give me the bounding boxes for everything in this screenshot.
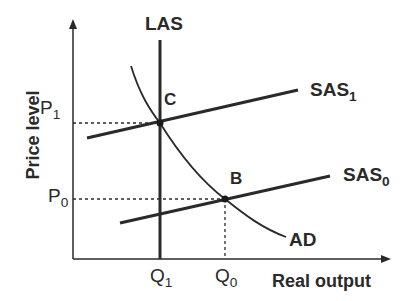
y-axis-title: Price level [24, 80, 42, 190]
ad-label: AD [289, 230, 316, 249]
x-axis-arrow-icon [381, 255, 391, 263]
point-c-label: C [164, 91, 176, 108]
point-b-marker [222, 196, 229, 203]
ad-curve [131, 66, 286, 237]
sas0-label: SAS0 [343, 165, 390, 184]
p1-tick-label: P1 [40, 98, 60, 117]
p0-tick-label: P0 [48, 186, 68, 205]
diagram-canvas [0, 0, 405, 301]
sas1-label: SAS1 [310, 80, 357, 99]
point-c-marker [157, 120, 164, 127]
point-b-label: B [230, 170, 242, 187]
sas1-curve [87, 90, 298, 138]
y-axis-arrow-icon [69, 19, 77, 29]
x-axis-title: Real output [272, 272, 371, 290]
q1-tick-label: Q1 [150, 266, 172, 285]
q0-tick-label: Q0 [215, 266, 237, 285]
las-label: LAS [145, 14, 183, 33]
